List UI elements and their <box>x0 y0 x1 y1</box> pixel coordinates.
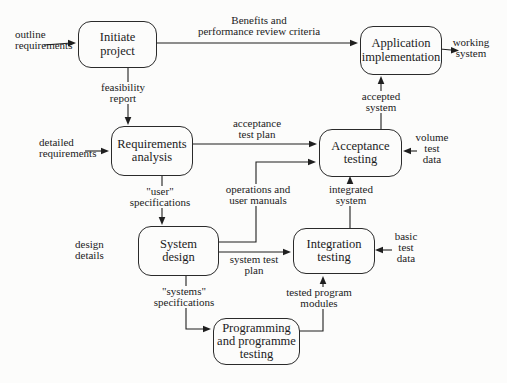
label-systems-specifications: "systems" specifications <box>152 286 216 308</box>
label-basic-test-data-line3: data <box>395 253 418 264</box>
label-user-specifications-line2: specifications <box>128 197 192 208</box>
label-design-details-line2: details <box>75 250 104 261</box>
label-system-test-plan-line2: plan <box>230 265 279 276</box>
label-working-system: working system <box>453 37 490 59</box>
label-acceptance-test-plan-line2: test plan <box>233 129 281 140</box>
label-detailed-requirements: detailed requirements <box>39 137 96 159</box>
label-system-test-plan: system test plan <box>230 254 279 276</box>
label-detailed-requirements-line2: requirements <box>39 148 96 159</box>
label-feasibility-report-line2: report <box>99 93 147 104</box>
label-design-details: design details <box>75 239 104 261</box>
box-integration-testing-line1: Integration <box>307 238 362 252</box>
box-acceptance-testing: Acceptance testing <box>319 129 402 177</box>
box-initiate-project-line1: Initiate <box>100 31 135 45</box>
box-initiate-project-line2: project <box>100 45 135 59</box>
label-outline-requirements-line2: requirements <box>15 40 72 51</box>
box-system-design-line1: System <box>160 238 197 252</box>
box-requirements-analysis: Requirements analysis <box>111 126 193 176</box>
label-operations-user-manuals-line2: user manuals <box>224 195 292 206</box>
arrow-benefits-criteria <box>155 40 358 46</box>
arrow-basic-test-data <box>375 247 392 253</box>
box-system-design-line2: design <box>162 251 195 265</box>
label-integrated-system: integrated system <box>327 184 375 206</box>
label-systems-specifications-line2: specifications <box>152 297 216 308</box>
label-outline-requirements: outline requirements <box>15 29 72 51</box>
label-feasibility-report: feasibility report <box>99 82 147 104</box>
box-requirements-analysis-line1: Requirements <box>117 138 186 152</box>
box-acceptance-testing-line1: Acceptance <box>331 140 389 154</box>
box-acceptance-testing-line2: testing <box>344 153 377 167</box>
label-tested-program-modules-line2: modules <box>284 298 354 309</box>
box-system-design: System design <box>138 226 219 276</box>
box-initiate-project: Initiate project <box>78 21 157 68</box>
label-accepted-system-line2: system <box>360 102 402 113</box>
box-requirements-analysis-line2: analysis <box>132 151 172 165</box>
process-flow-diagram: Initiate project Application implementat… <box>0 0 507 383</box>
label-tested-program-modules: tested program modules <box>284 287 354 309</box>
box-application-implementation-line2: implementation <box>362 51 440 65</box>
label-volume-test-data: volume test data <box>416 132 449 165</box>
label-basic-test-data: basic test data <box>395 231 418 264</box>
box-integration-testing: Integration testing <box>293 228 375 274</box>
label-benefits-criteria: Benefits and performance review criteria <box>198 15 320 37</box>
box-integration-testing-line2: testing <box>317 251 350 265</box>
label-working-system-line2: system <box>453 48 490 59</box>
label-accepted-system: accepted system <box>360 91 402 113</box>
label-integrated-system-line2: system <box>327 195 375 206</box>
label-operations-user-manuals: operations and user manuals <box>224 184 292 206</box>
label-acceptance-test-plan: acceptance test plan <box>233 118 281 140</box>
label-volume-test-data-line3: data <box>416 154 449 165</box>
box-application-implementation: Application implementation <box>360 26 442 75</box>
box-programming-testing-line3: testing <box>240 348 273 361</box>
box-application-implementation-line1: Application <box>371 37 430 51</box>
arrow-acceptance-test-plan <box>191 141 317 147</box>
label-user-specifications: "user" specifications <box>128 186 192 208</box>
label-benefits-criteria-line2: performance review criteria <box>198 26 320 37</box>
box-programming-testing: Programming and programme testing <box>213 318 300 365</box>
